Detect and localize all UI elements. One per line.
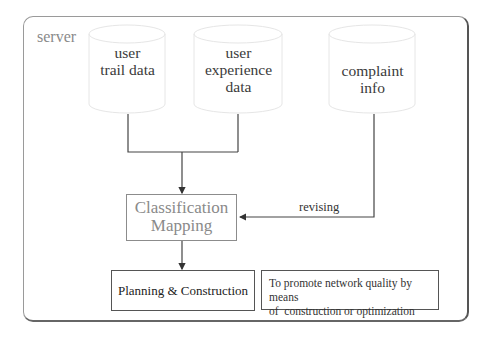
connector-user-trail [128, 114, 238, 152]
source-label-line: user [89, 44, 166, 61]
source-user-experience-data: user experience data [194, 44, 283, 95]
source-complaint-info: complaint info [329, 62, 416, 96]
source-label-line: user [194, 44, 283, 61]
note-line: To promote network quality by means [269, 276, 438, 304]
planning-label: Planning & Construction [118, 283, 248, 299]
promote-note-box: To promote network quality by means of c… [261, 270, 439, 310]
classification-mapping-box: Classification Mapping [126, 194, 237, 241]
source-label-line: info [329, 79, 416, 96]
source-label-line: complaint [329, 62, 416, 79]
source-label-line: trail data [89, 61, 166, 78]
revising-label: revising [299, 200, 339, 215]
planning-construction-box: Planning & Construction [111, 270, 255, 311]
process-label-line: Mapping [127, 217, 236, 235]
source-label-line: data [194, 78, 283, 95]
source-user-trail-data: user trail data [89, 44, 166, 78]
source-label-line: experience [194, 61, 283, 78]
process-label-line: Classification [127, 199, 236, 217]
note-line: of construction or optimization [269, 304, 438, 318]
